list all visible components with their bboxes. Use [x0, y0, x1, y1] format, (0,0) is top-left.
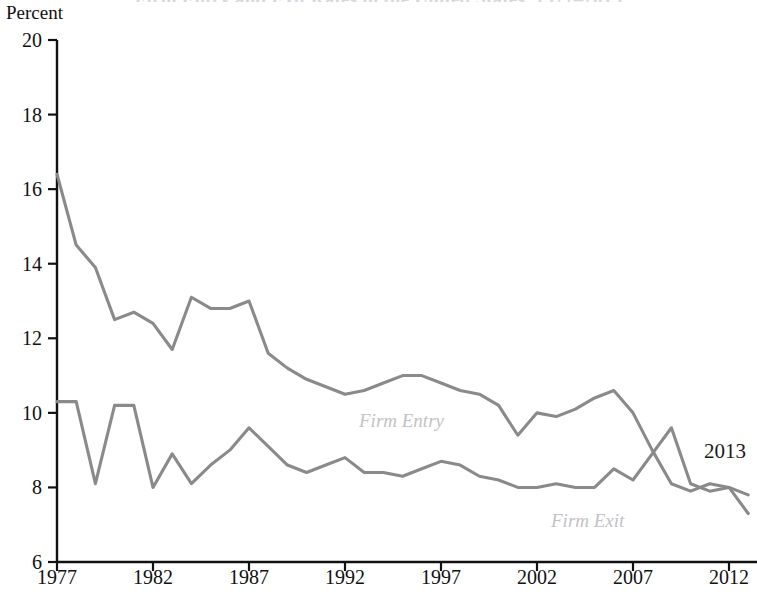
x-axis-tick-label: 1997	[401, 566, 481, 589]
y-axis-ticks	[48, 40, 57, 562]
x-axis-tick-label: 1987	[209, 566, 289, 589]
x-axis-tick-label: 1992	[305, 566, 385, 589]
series-label-firm-entry: Firm Entry	[359, 410, 444, 432]
x-axis-tick-label: 1982	[113, 566, 193, 589]
series-line-firm-entry	[57, 174, 748, 495]
x-axis-tick-label: 1977	[17, 566, 97, 589]
y-axis-tick-label: 20	[6, 29, 42, 52]
figure-container: Firm Entry and Exit Rates in the United …	[0, 0, 757, 598]
y-axis-tick-label: 8	[6, 476, 42, 499]
annotation-endpoint-year-2013: 2013	[704, 439, 746, 464]
x-axis-tick-label: 2002	[497, 566, 577, 589]
y-axis-tick-label: 12	[6, 327, 42, 350]
series-label-firm-exit: Firm Exit	[551, 510, 624, 532]
line-chart-plot	[0, 0, 757, 598]
x-axis-tick-label: 2007	[593, 566, 673, 589]
axes-group	[48, 40, 757, 571]
y-axis-tick-label: 16	[6, 178, 42, 201]
data-series-group	[57, 174, 748, 513]
y-axis-tick-label: 18	[6, 103, 42, 126]
x-axis-tick-label: 2012	[689, 566, 757, 589]
y-axis-tick-label: 14	[6, 252, 42, 275]
y-axis-tick-label: 10	[6, 401, 42, 424]
